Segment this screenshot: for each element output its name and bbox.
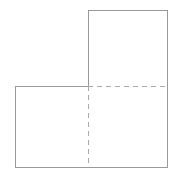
l-shape-diagram <box>0 0 180 179</box>
l-shape-outline <box>15 10 167 167</box>
figure-canvas <box>0 0 180 179</box>
